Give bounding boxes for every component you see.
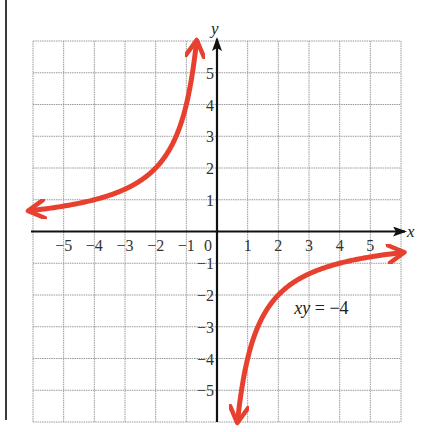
- x-tick-label: 1: [244, 237, 252, 254]
- x-tick-label: −4: [86, 237, 103, 254]
- x-axis-label: x: [406, 222, 415, 241]
- y-tick-label: 1: [206, 192, 214, 209]
- x-tick-label: 3: [305, 237, 313, 254]
- y-axis-label: y: [209, 19, 219, 38]
- y-tick-label: −1: [197, 255, 214, 272]
- x-tick-label: −2: [147, 237, 164, 254]
- y-tick-label: −4: [197, 351, 214, 368]
- equation-value-part: = −4: [310, 298, 348, 318]
- x-tick-label: 5: [366, 237, 374, 254]
- hyperbola-branch: [30, 42, 197, 211]
- y-tick-label: 4: [206, 97, 214, 114]
- hyperbola-chart: −5−4−3−2−1012345−5−4−3−2−112345 x y xy =…: [0, 0, 433, 432]
- y-tick-label: −5: [197, 382, 214, 399]
- y-tick-label: 5: [206, 65, 214, 82]
- equation-variable-part: xy: [293, 298, 310, 318]
- x-tick-label: 4: [336, 237, 344, 254]
- y-tick-label: 3: [206, 128, 214, 145]
- y-tick-label: −2: [197, 287, 214, 304]
- axes: [31, 39, 405, 422]
- equation-annotation: xy = −4: [293, 298, 348, 318]
- x-tick-label: 0: [204, 237, 212, 254]
- hyperbola-branch: [238, 252, 403, 421]
- y-tick-label: 2: [206, 160, 214, 177]
- y-tick-label: −3: [197, 319, 214, 336]
- x-tick-label: −1: [178, 237, 195, 254]
- x-tick-label: −5: [55, 237, 72, 254]
- x-tick-label: 2: [274, 237, 282, 254]
- x-tick-label: −3: [116, 237, 133, 254]
